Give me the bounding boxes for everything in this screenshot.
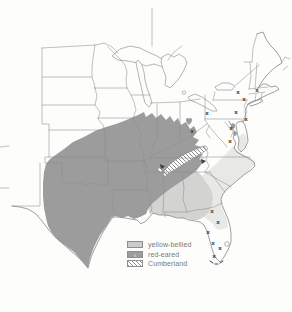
introduced-population-mark: x	[242, 96, 246, 102]
introduced-population-mark: x	[244, 116, 248, 122]
lake-huron	[161, 54, 187, 88]
introduced-population-mark: x	[255, 87, 259, 93]
svg-text:x: x	[134, 251, 137, 257]
introduced-population-mark: x	[211, 240, 215, 246]
introduced-population-mark: x	[216, 219, 220, 225]
introduced-population-mark: x	[206, 229, 210, 235]
introduced-population-mark: x	[236, 89, 240, 95]
introduced-population-mark: x	[229, 125, 233, 131]
lake-st-clair	[182, 91, 185, 94]
legend-item-cumberland: Cumberland	[127, 260, 191, 267]
introduced-population-mark: x	[190, 128, 194, 134]
red-eared-swatch-icon: x	[127, 251, 143, 258]
legend-item-red-eared: x red-eared	[127, 251, 191, 258]
lake-michigan	[136, 60, 152, 107]
legend-label-cumberland: Cumberland	[148, 260, 187, 267]
introduced-population-mark: x	[228, 138, 232, 144]
cumberland-swatch-icon	[127, 260, 143, 267]
yellow-bellied-swatch-icon	[127, 241, 143, 248]
introduced-population-mark: x	[234, 109, 238, 115]
introduced-population-mark: x	[218, 245, 222, 251]
range-map-figure: xxxxxxxxxxxxxxx yellow-bellied x red-ear…	[0, 0, 292, 312]
legend-label-yellow-bellied: yellow-bellied	[148, 241, 191, 248]
legend: yellow-bellied x red-eared Cumberland	[127, 241, 191, 267]
yellow-bellied-delmarva-patch	[238, 133, 247, 151]
introduced-population-mark: x	[205, 110, 209, 116]
lake-erie	[188, 94, 217, 111]
introduced-population-mark: x	[210, 208, 214, 214]
legend-label-red-eared: red-eared	[148, 251, 179, 258]
page: { "map": { "mark_symbol": "x", "colors":…	[0, 0, 292, 312]
florida-keys-dashes	[210, 261, 223, 264]
lake-ontario	[215, 83, 235, 90]
introduced-population-mark: x	[212, 253, 216, 259]
legend-item-yellow-bellied: yellow-bellied	[127, 241, 191, 248]
lake-okeechobee	[225, 242, 230, 247]
